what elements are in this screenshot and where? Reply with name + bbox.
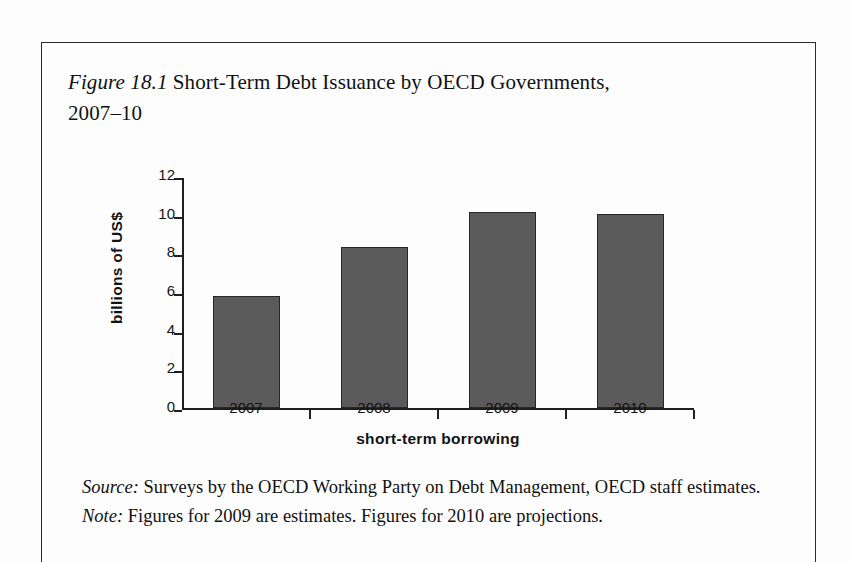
- x-tick-mark: [309, 410, 311, 419]
- page-canvas: Figure 18.1 Short-Term Debt Issuance by …: [0, 0, 852, 562]
- plot-area: 024681012: [182, 178, 694, 410]
- y-tick-label: 0: [167, 398, 175, 415]
- bar-chart: 024681012 2007200820092010: [42, 153, 817, 403]
- bar: [341, 247, 408, 408]
- y-tick-mark: [174, 333, 182, 335]
- y-axis-line: [182, 178, 184, 410]
- x-axis-title: short-term borrowing: [182, 430, 694, 448]
- source-text: Surveys by the OECD Working Party on Deb…: [139, 477, 761, 497]
- x-tick-label: 2007: [229, 399, 262, 416]
- figure-caption: Figure 18.1 Short-Term Debt Issuance by …: [68, 67, 668, 129]
- x-tick-label: 2010: [613, 399, 646, 416]
- bar: [469, 212, 536, 408]
- source-label: Source:: [82, 477, 139, 497]
- x-tick-label: 2008: [357, 399, 390, 416]
- note-text: Figures for 2009 are estimates. Figures …: [123, 506, 603, 526]
- x-tick-mark: [437, 410, 439, 419]
- y-tick-mark: [174, 178, 182, 180]
- y-tick-label: 10: [158, 205, 175, 222]
- y-tick-mark: [174, 410, 182, 412]
- bar: [213, 296, 280, 408]
- x-tick-label: 2009: [485, 399, 518, 416]
- x-tick-mark: [565, 410, 567, 419]
- y-tick-mark: [174, 255, 182, 257]
- bar: [597, 214, 664, 408]
- y-tick-label: 6: [167, 282, 175, 299]
- note-label: Note:: [82, 506, 123, 526]
- x-tick-mark: [693, 410, 695, 419]
- y-tick-mark: [174, 371, 182, 373]
- figure-number: Figure 18.1: [68, 70, 167, 94]
- y-tick-mark: [174, 294, 182, 296]
- y-tick-label: 12: [158, 166, 175, 183]
- source-line: Source: Surveys by the OECD Working Part…: [56, 473, 806, 501]
- figure-notes: Source: Surveys by the OECD Working Part…: [56, 473, 806, 530]
- y-tick-mark: [174, 217, 182, 219]
- y-tick-label: 4: [167, 321, 175, 338]
- y-tick-label: 2: [167, 359, 175, 376]
- note-line: Note: Figures for 2009 are estimates. Fi…: [56, 502, 806, 530]
- y-tick-label: 8: [167, 243, 175, 260]
- figure-box: Figure 18.1 Short-Term Debt Issuance by …: [41, 42, 816, 562]
